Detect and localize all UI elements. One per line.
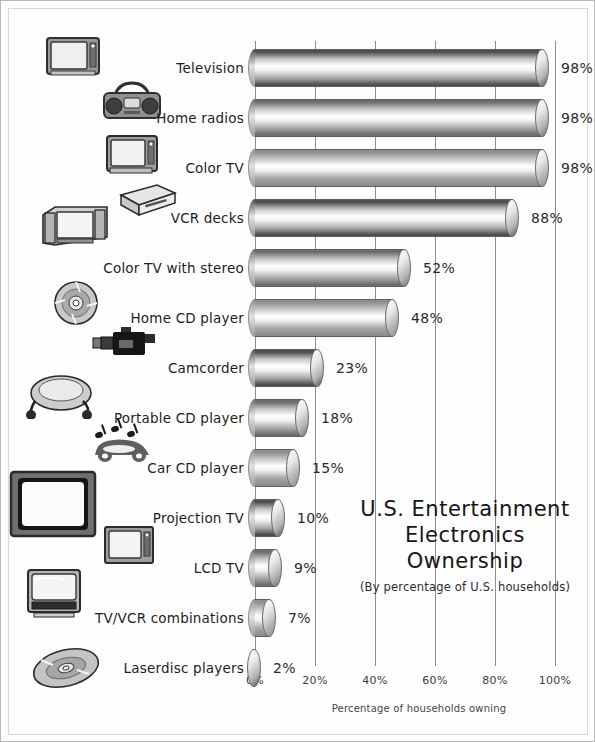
bar-body: [255, 299, 392, 337]
bar-color-tv[interactable]: [255, 149, 549, 187]
category-label: VCR decks: [171, 210, 244, 226]
bar-body: [255, 249, 404, 287]
title-line-1: U.S. Entertainment: [341, 496, 589, 522]
bar-lcd-tv[interactable]: [255, 549, 282, 587]
chart-title-block: U.S. Entertainment Electronics Ownership…: [341, 496, 589, 594]
bar-value-label: 88%: [531, 210, 563, 226]
bar-value-label: 98%: [561, 160, 593, 176]
bar-end-cap: [286, 449, 300, 487]
category-label: LCD TV: [194, 560, 244, 576]
bar-vcr-decks[interactable]: [255, 199, 519, 237]
bar-camcorder[interactable]: [255, 349, 324, 387]
category-label: Color TV: [185, 160, 244, 176]
bar-end-cap: [505, 199, 519, 237]
bar-portable-cd-player[interactable]: [255, 399, 309, 437]
bar-value-label: 98%: [561, 110, 593, 126]
bar-end-cap: [535, 99, 549, 137]
bar-value-label: 10%: [297, 510, 329, 526]
title-line-2: Electronics: [341, 522, 589, 548]
bar-value-label: 98%: [561, 60, 593, 76]
bar-value-label: 23%: [336, 360, 368, 376]
bar-end-cap: [247, 649, 261, 687]
bar-end-cap: [262, 599, 276, 637]
x-axis-title: Percentage of households owning: [332, 703, 507, 714]
chart-subtitle: (By percentage of U.S. households): [341, 580, 589, 594]
category-label: Home radios: [156, 110, 244, 126]
x-axis-tick-label: 80%: [482, 674, 507, 687]
bar-value-label: 15%: [312, 460, 344, 476]
bar-tv-vcr-combinations[interactable]: [255, 599, 276, 637]
category-label: Projection TV: [153, 510, 244, 526]
bar-value-label: 2%: [273, 660, 296, 676]
bar-body: [255, 49, 542, 87]
bar-end-cap: [385, 299, 399, 337]
bar-body: [255, 349, 317, 387]
category-label: Laserdisc players: [124, 660, 244, 676]
bar-projection-tv[interactable]: [255, 499, 285, 537]
bar-value-label: 9%: [294, 560, 317, 576]
chart-frame: 0%20%40%60%80%100%Percentage of househol…: [0, 0, 595, 742]
bar-body: [255, 199, 512, 237]
category-label: Car CD player: [147, 460, 244, 476]
bar-home-radios[interactable]: [255, 99, 549, 137]
bar-end-cap: [295, 399, 309, 437]
bar-end-cap: [310, 349, 324, 387]
plot-area: 0%20%40%60%80%100%Percentage of househol…: [1, 1, 595, 742]
bar-color-tv-with-stereo[interactable]: [255, 249, 411, 287]
bar-end-cap: [271, 499, 285, 537]
bar-television[interactable]: [255, 49, 549, 87]
bar-car-cd-player[interactable]: [255, 449, 300, 487]
category-label: Television: [176, 60, 244, 76]
bar-value-label: 18%: [321, 410, 353, 426]
category-label: Camcorder: [168, 360, 244, 376]
bar-value-label: 7%: [288, 610, 311, 626]
category-label: Home CD player: [130, 310, 244, 326]
bar-body: [255, 99, 542, 137]
bar-value-label: 48%: [411, 310, 443, 326]
x-axis-tick-label: 100%: [539, 674, 572, 687]
category-label: Color TV with stereo: [103, 260, 244, 276]
bar-end-cap: [268, 549, 282, 587]
bar-laserdisc-players[interactable]: [255, 649, 261, 687]
category-label: Portable CD player: [114, 410, 244, 426]
bar-value-label: 52%: [423, 260, 455, 276]
bar-end-cap: [397, 249, 411, 287]
x-axis-tick-label: 60%: [422, 674, 447, 687]
bar-end-cap: [535, 49, 549, 87]
x-axis-tick-label: 20%: [302, 674, 327, 687]
title-line-3: Ownership: [341, 548, 589, 574]
x-axis-tick-label: 40%: [362, 674, 387, 687]
bar-end-cap: [535, 149, 549, 187]
bar-body: [255, 149, 542, 187]
category-label: TV/VCR combinations: [95, 610, 244, 626]
bar-home-cd-player[interactable]: [255, 299, 399, 337]
